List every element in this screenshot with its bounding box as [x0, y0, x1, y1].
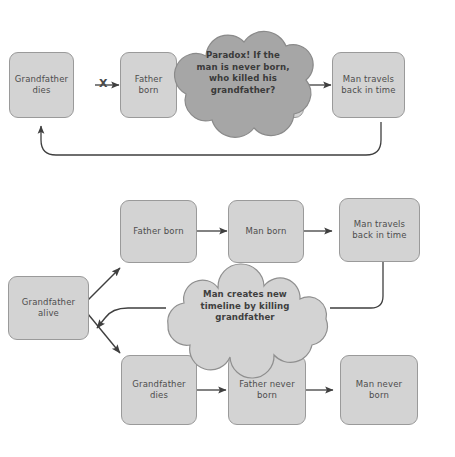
node-label: Man born	[245, 226, 286, 237]
node-label: Man travels back in time	[341, 74, 395, 96]
node-father-never-born[interactable]: Father never born	[228, 355, 306, 425]
timeline-cloud-label: Man creates new timeline by killing gran…	[180, 289, 310, 324]
node-father-born-2[interactable]: Father born	[120, 200, 197, 263]
node-label: Grandfather dies	[132, 379, 185, 401]
arrow-cloud-to-gfalive	[97, 308, 166, 328]
line-mantravels2-to-cloud	[330, 262, 383, 308]
node-man-travels-back[interactable]: Man travels back in time	[332, 52, 405, 118]
node-label: Father never born	[239, 379, 295, 401]
node-man-born-2[interactable]: Man born	[228, 200, 304, 263]
node-grandfather-dies[interactable]: Grandfather dies	[9, 52, 74, 118]
node-label: Father born	[135, 74, 163, 96]
node-grandfather-alive[interactable]: Grandfather alive	[8, 276, 89, 340]
node-label: Grandfather dies	[15, 74, 68, 96]
arrow-feedback-loop	[41, 122, 381, 155]
node-label: Man born	[258, 80, 297, 91]
node-father-born[interactable]: Father born	[120, 52, 177, 118]
node-grandfather-dies-2[interactable]: Grandfather dies	[121, 355, 197, 425]
node-label: Grandfather alive	[22, 297, 75, 319]
node-man-travels-back-2[interactable]: Man travels back in time	[339, 198, 420, 262]
node-label: Man never born	[356, 379, 402, 401]
arrow-gfalive-to-fatherborn2	[88, 268, 120, 300]
node-man-never-born[interactable]: Man never born	[340, 355, 418, 425]
blocked-arrow-x-marker: X	[99, 78, 107, 89]
diagram-canvas: Grandfather dies X Father born Man born …	[0, 0, 455, 457]
node-label: Man travels back in time	[352, 219, 406, 241]
node-man-born-obscured[interactable]: Man born	[250, 52, 304, 118]
node-label: Father born	[133, 226, 183, 237]
arrow-gfalive-to-gfdies2	[88, 314, 120, 353]
